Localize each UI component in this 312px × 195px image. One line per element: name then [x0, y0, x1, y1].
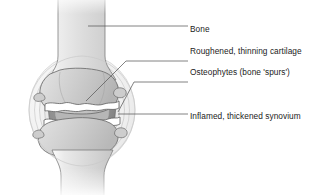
- lower-bone: [33, 118, 127, 195]
- joint-anatomy-illustration: [0, 0, 312, 195]
- label-inflamed-thickened-synovium: Inflamed, thickened synovium: [190, 111, 301, 121]
- label-bone: Bone: [190, 24, 210, 34]
- upper-bone: [34, 0, 126, 114]
- upper-shaft-top-fade: [56, 0, 107, 14]
- osteophyte-spur-upper-left: [34, 93, 45, 101]
- label-osteophytes-bone-spurs: Osteophytes (bone 'spurs'): [190, 67, 290, 77]
- lower-shaft-bottom-fade: [48, 168, 120, 195]
- label-roughened-thinning-cartilage: Roughened, thinning cartilage: [190, 46, 302, 56]
- osteoarthritic-joint-figure: Bone Roughened, thinning cartilage Osteo…: [0, 0, 312, 195]
- osteophyte-spur-lower-right: [115, 128, 128, 138]
- osteophyte-spur-upper-right: [114, 88, 127, 98]
